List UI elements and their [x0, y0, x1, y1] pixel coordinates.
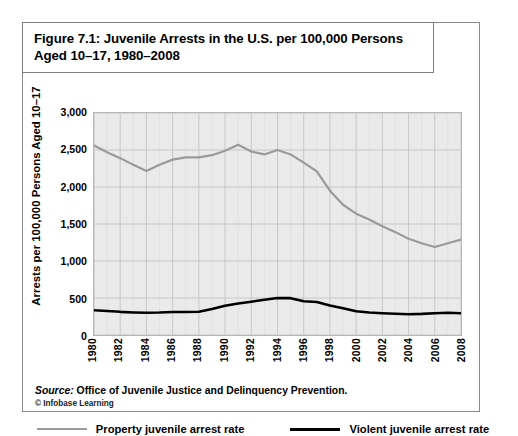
x-axis-tick-label: 2008 [456, 338, 467, 362]
legend-label: Property juvenile arrest rate [96, 423, 245, 435]
copyright-note: © Infobase Learning [35, 399, 114, 408]
plot-area [93, 112, 462, 336]
x-axis-tick-label: 1992 [245, 338, 256, 362]
y-axis-tick-label: 500 [69, 293, 87, 305]
legend-item: Property juvenile arrest rate [37, 423, 245, 435]
x-axis-tick-label: 2004 [403, 338, 414, 362]
series-line [94, 145, 461, 247]
x-axis-tick-label: 2006 [430, 338, 441, 362]
legend-swatch [290, 428, 340, 431]
y-axis-tick-label: 1,000 [60, 255, 87, 267]
series-line [94, 298, 461, 314]
source-value: Office of Juvenile Justice and Delinquen… [74, 385, 348, 396]
x-axis-tick-label: 1994 [272, 338, 283, 362]
legend-label: Violent juvenile arrest rate [349, 423, 489, 435]
y-axis-ticks: 05001,0001,5002,0002,5003,000 [44, 112, 91, 336]
x-axis-tick-label: 1982 [113, 338, 124, 362]
y-axis-tick-label: 2,000 [60, 181, 87, 193]
x-axis-tick-label: 1998 [324, 338, 335, 362]
page-title: Figure 7.1: Juvenile Arrests in the U.S.… [34, 30, 423, 64]
source-note: Source: Office of Juvenile Justice and D… [35, 385, 347, 396]
x-axis-tick-label: 1988 [192, 338, 203, 362]
y-axis-tick-label: 3,000 [60, 106, 87, 118]
x-axis-tick-label: 1986 [166, 338, 177, 362]
x-axis-tick-label: 1984 [140, 338, 151, 362]
legend-item: Violent juvenile arrest rate [290, 423, 489, 435]
x-axis-tick-label: 2002 [377, 338, 388, 362]
figure-title-box: Figure 7.1: Juvenile Arrests in the U.S.… [22, 22, 434, 73]
chart-region: Arrests per 100,000 Persons Aged 10–17 0… [34, 80, 470, 361]
x-axis-tick-label: 1980 [87, 338, 98, 362]
legend-swatch [37, 428, 87, 430]
chart-legend: Property juvenile arrest rateViolent juv… [45, 418, 481, 436]
y-axis-tick-label: 2,500 [60, 143, 87, 155]
x-axis-ticks: 1980198219841986198819901992199419961998… [93, 338, 462, 382]
data-series-lines [94, 113, 461, 335]
figure-container: Figure 7.1: Juvenile Arrests in the U.S.… [22, 22, 480, 412]
source-label: Source: [35, 385, 74, 396]
x-axis-tick-label: 1990 [219, 338, 230, 362]
x-axis-tick-label: 2000 [351, 338, 362, 362]
x-axis-tick-label: 1996 [298, 338, 309, 362]
y-axis-tick-label: 1,500 [60, 218, 87, 230]
